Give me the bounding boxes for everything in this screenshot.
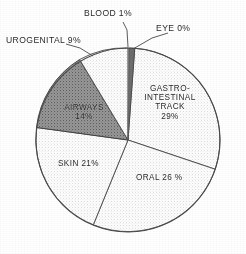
- label-airways-line-2: 14%: [56, 112, 112, 121]
- label-airways: AIRWAYS 14%: [56, 103, 112, 121]
- label-gastro-line-4: 29%: [139, 112, 201, 121]
- label-blood: BLOOD 1%: [84, 9, 132, 19]
- leader-line-blood: [123, 22, 128, 47]
- label-gastro-line-1: GASTRO-: [139, 84, 201, 93]
- label-airways-line-1: AIRWAYS: [56, 103, 112, 112]
- label-gastro-line-2: INTESTINAL: [139, 93, 201, 102]
- label-oral: ORAL 26 %: [136, 173, 183, 182]
- label-skin: SKIN 21%: [58, 159, 99, 168]
- label-urogenital: UROGENITAL 9%: [6, 36, 81, 46]
- label-gastro-line-3: TRACK: [139, 102, 201, 111]
- label-gastro-intestinal-track: GASTRO- INTESTINAL TRACK 29%: [139, 84, 201, 121]
- leader-line-urogenital: [66, 44, 93, 56]
- leader-line-eye: [133, 33, 168, 49]
- pie-chart-figure: BLOOD 1% EYE 0% UROGENITAL 9% GASTRO- IN…: [0, 0, 246, 254]
- label-eye: EYE 0%: [156, 24, 190, 34]
